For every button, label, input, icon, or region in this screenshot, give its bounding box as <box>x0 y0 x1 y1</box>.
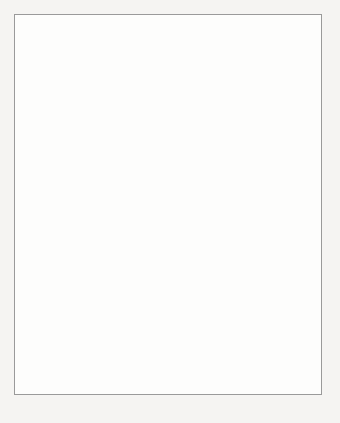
figure-card <box>14 14 322 395</box>
chart-area <box>29 70 309 285</box>
area-chart-svg <box>53 76 300 254</box>
page-background <box>0 0 340 423</box>
